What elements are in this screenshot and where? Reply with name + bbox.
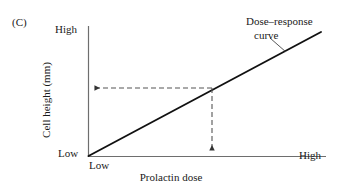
panel-label: (C) [12, 17, 27, 28]
curve-annotation-line-2: curve [254, 30, 278, 41]
dose-response-figure: (C) High Low Cell height (mm) Low High P… [0, 0, 342, 192]
x-axis-max-label: High [299, 150, 321, 161]
y-axis-max-label: High [55, 24, 77, 35]
dose-response-curve [89, 32, 322, 156]
curve-annotation-line-1: Dose–response [246, 16, 313, 27]
x-axis-min-label: Low [89, 160, 109, 171]
y-axis-title: Cell height (mm) [41, 62, 52, 138]
y-axis-min-label: Low [58, 148, 78, 159]
x-axis-title: Prolactin dose [140, 172, 203, 183]
